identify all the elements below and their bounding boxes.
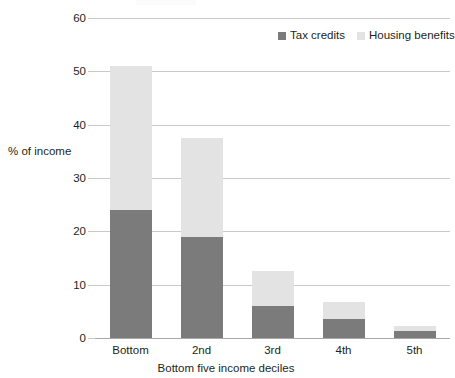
bar-group-4th[interactable] [323, 302, 365, 338]
y-tick-label-20: 20 [73, 225, 86, 237]
x-tick-label-2nd: 2nd [166, 344, 237, 356]
y-tick-label-10: 10 [73, 279, 86, 291]
x-tick-label-5th: 5th [379, 344, 450, 356]
plot-area: 0102030405060 [95, 18, 450, 338]
y-tick-mark-30 [88, 178, 95, 179]
x-axis-title: Bottom five income deciles [0, 362, 452, 374]
y-tick-label-60: 60 [73, 12, 86, 24]
bar-segment-tax-credits[interactable] [394, 331, 436, 338]
bar-segment-tax-credits[interactable] [181, 237, 223, 338]
y-tick-mark-60 [88, 18, 95, 19]
x-tick-label-4th: 4th [308, 344, 379, 356]
y-tick-mark-0 [88, 338, 95, 339]
bars-layer [95, 18, 450, 338]
y-tick-mark-20 [88, 231, 95, 232]
bar-group-5th[interactable] [394, 326, 436, 338]
bar-segment-tax-credits[interactable] [323, 319, 365, 338]
y-tick-mark-10 [88, 285, 95, 286]
y-tick-label-50: 50 [73, 65, 86, 77]
y-tick-mark-40 [88, 125, 95, 126]
top-edge-artifact [136, 0, 196, 5]
bar-group-2nd[interactable] [181, 138, 223, 338]
x-tick-label-bottom: Bottom [95, 344, 166, 356]
y-tick-label-30: 30 [73, 172, 86, 184]
y-tick-mark-50 [88, 71, 95, 72]
bar-segment-housing-benefits[interactable] [181, 138, 223, 237]
bar-group-3rd[interactable] [252, 271, 294, 338]
bar-segment-tax-credits[interactable] [252, 306, 294, 338]
y-axis-title: % of income [8, 145, 71, 157]
y-tick-label-40: 40 [73, 119, 86, 131]
bar-segment-housing-benefits[interactable] [394, 326, 436, 331]
y-tick-label-0: 0 [80, 332, 86, 344]
gridline-0 [95, 338, 450, 339]
bar-segment-tax-credits[interactable] [110, 210, 152, 338]
bar-segment-housing-benefits[interactable] [323, 302, 365, 319]
x-tick-label-3rd: 3rd [237, 344, 308, 356]
bar-segment-housing-benefits[interactable] [252, 271, 294, 306]
bar-segment-housing-benefits[interactable] [110, 66, 152, 210]
bar-group-bottom[interactable] [110, 66, 152, 338]
